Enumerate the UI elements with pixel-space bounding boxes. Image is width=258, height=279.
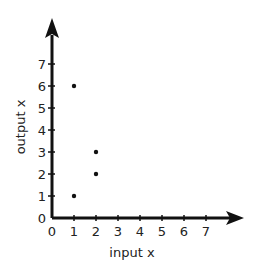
x-tick-label: 4 bbox=[136, 224, 144, 239]
y-tick-label: 2 bbox=[38, 167, 46, 182]
data-point bbox=[94, 150, 98, 154]
y-tick-label: 7 bbox=[38, 57, 46, 72]
x-axis-label: input x bbox=[109, 245, 155, 260]
y-tick-label: 6 bbox=[38, 79, 46, 94]
x-tick-label: 1 bbox=[70, 224, 78, 239]
x-tick-label: 5 bbox=[158, 224, 166, 239]
y-tick-label: 4 bbox=[38, 123, 46, 138]
y-tick-label: 5 bbox=[38, 101, 46, 116]
x-tick-label: 3 bbox=[114, 224, 122, 239]
axes bbox=[45, 18, 244, 225]
x-tick-label: 2 bbox=[92, 224, 100, 239]
y-tick-label: 1 bbox=[38, 189, 46, 204]
y-tick-label: 0 bbox=[38, 211, 46, 226]
data-point bbox=[94, 172, 98, 176]
x-tick-label: 6 bbox=[180, 224, 188, 239]
data-point bbox=[72, 84, 76, 88]
scatter-chart: 01234567 01234567 input x output x bbox=[0, 0, 258, 279]
y-axis-label: output x bbox=[13, 99, 28, 154]
data-point bbox=[72, 194, 76, 198]
data-points bbox=[72, 84, 98, 198]
x-tick-label: 0 bbox=[48, 224, 56, 239]
x-tick-label: 7 bbox=[202, 224, 210, 239]
y-tick-label: 3 bbox=[38, 145, 46, 160]
